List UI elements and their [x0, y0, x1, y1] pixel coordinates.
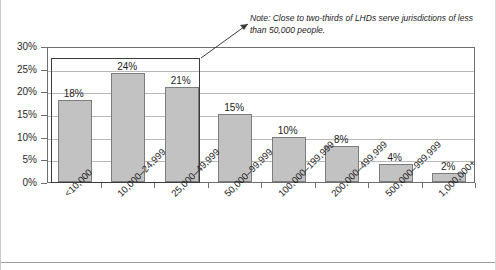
bar-value-label: 10% — [263, 125, 313, 136]
x-axis-tick-mark — [101, 183, 102, 188]
y-axis-tick-label: 0% — [1, 178, 37, 188]
bar-value-label: 15% — [209, 102, 259, 113]
bar-value-label: 8% — [316, 134, 366, 145]
bar-value-label: 21% — [156, 75, 206, 86]
bar-value-label: 4% — [370, 152, 420, 163]
bar-value-label: 2% — [423, 161, 473, 172]
x-axis-tick-mark — [475, 183, 476, 188]
bar-value-label: 24% — [102, 61, 152, 72]
y-axis-tick-label: 20% — [1, 87, 37, 97]
y-axis: 0%5%10%15%20%25%30% — [1, 47, 45, 183]
y-axis-tick-label: 15% — [1, 110, 37, 120]
x-axis-tick-mark — [154, 183, 155, 188]
x-axis-tick-mark — [208, 183, 209, 188]
x-axis-tick-mark — [422, 183, 423, 188]
y-axis-tick-label: 25% — [1, 65, 37, 75]
y-axis-tick-label: 10% — [1, 133, 37, 143]
x-axis-tick-mark — [368, 183, 369, 188]
x-axis-tick-mark — [261, 183, 262, 188]
bottom-divider — [1, 262, 496, 263]
bar-value-label: 18% — [49, 88, 99, 99]
note-text: Note: Close to two-thirds of LHDs serve … — [250, 13, 480, 36]
chart-figure: 0%5%10%15%20%25%30% <10,00010,000–24,999… — [0, 0, 496, 270]
y-axis-tick-mark — [41, 183, 47, 184]
y-axis-tick-label: 5% — [1, 155, 37, 165]
y-axis-tick-label: 30% — [1, 42, 37, 52]
x-axis-tick-mark — [315, 183, 316, 188]
